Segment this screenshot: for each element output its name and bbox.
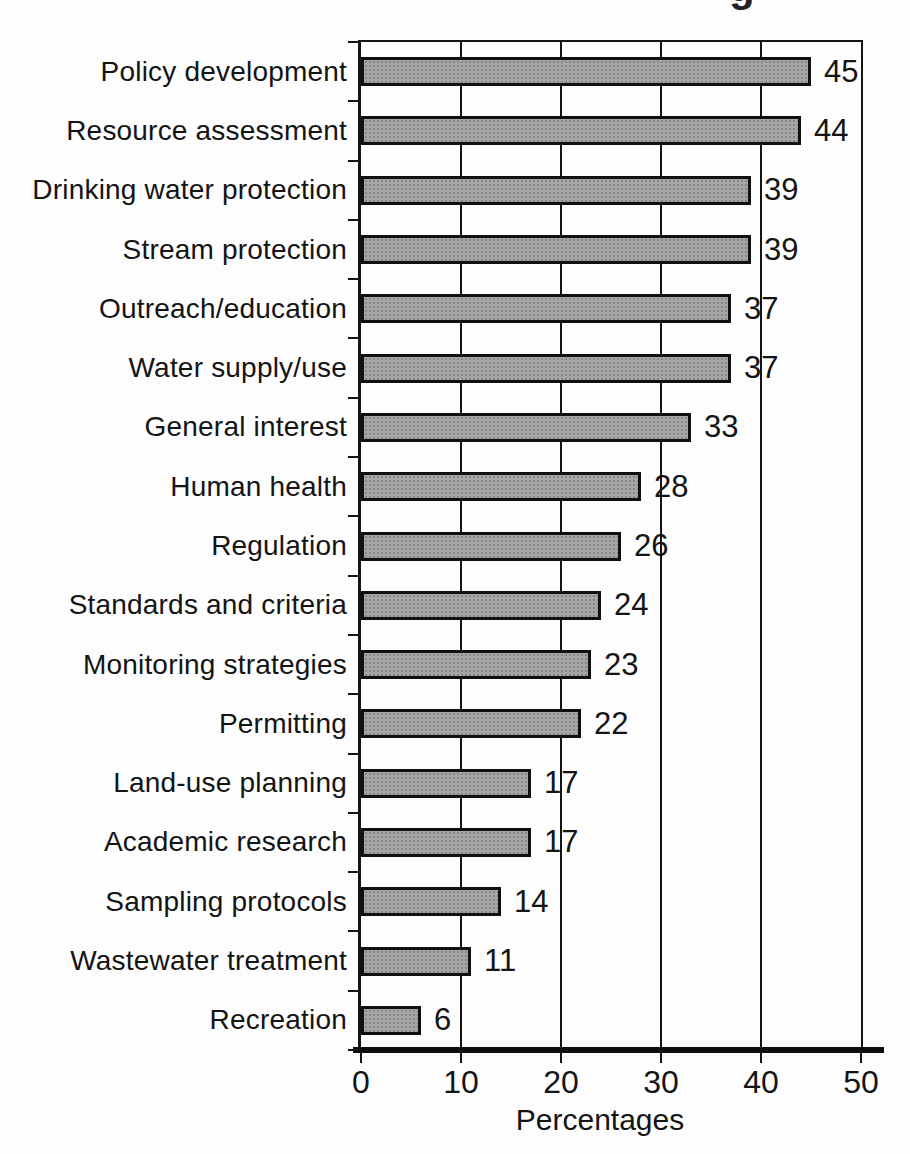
y-axis-tick-17 xyxy=(348,1049,358,1051)
y-axis-tick-8 xyxy=(348,515,358,517)
bar-sampling-protocols xyxy=(361,887,501,916)
y-axis-tick-5 xyxy=(348,337,358,339)
x-axis-tick-label-40: 40 xyxy=(743,1064,779,1101)
value-label-stream-protection: 39 xyxy=(764,232,798,268)
category-label-monitoring-strategies: Monitoring strategies xyxy=(0,644,347,686)
category-label-water-supply-use: Water supply/use xyxy=(0,347,347,389)
y-axis-tick-12 xyxy=(348,753,358,755)
bar-drinking-water-protection xyxy=(361,176,751,205)
value-label-recreation: 6 xyxy=(434,1002,451,1038)
bar-land-use-planning xyxy=(361,769,531,798)
x-axis-tick-20 xyxy=(560,1052,562,1063)
y-axis-tick-4 xyxy=(348,278,358,280)
y-axis-tick-10 xyxy=(348,634,358,636)
x-axis-tick-0 xyxy=(360,1052,362,1063)
value-label-standards-and-criteria: 24 xyxy=(614,587,648,623)
bar-academic-research xyxy=(361,828,531,857)
category-label-policy-development: Policy development xyxy=(0,51,347,93)
value-label-wastewater-treatment: 11 xyxy=(484,943,516,979)
category-label-standards-and-criteria: Standards and criteria xyxy=(0,584,347,626)
value-label-regulation: 26 xyxy=(634,528,668,564)
value-label-general-interest: 33 xyxy=(704,409,738,445)
y-axis-tick-11 xyxy=(348,693,358,695)
category-label-outreach-education: Outreach/education xyxy=(0,288,347,330)
category-label-regulation: Regulation xyxy=(0,525,347,567)
value-label-academic-research: 17 xyxy=(544,824,578,860)
value-label-land-use-planning: 17 xyxy=(544,765,578,801)
gridline-40 xyxy=(760,42,762,1050)
x-axis-tick-label-30: 30 xyxy=(643,1064,679,1101)
category-label-general-interest: General interest xyxy=(0,406,347,448)
x-axis-tick-30 xyxy=(660,1052,662,1063)
category-label-sampling-protocols: Sampling protocols xyxy=(0,881,347,923)
x-axis-tick-label-10: 10 xyxy=(443,1064,479,1101)
bar-policy-development xyxy=(361,57,811,86)
bar-water-supply-use xyxy=(361,354,731,383)
plot-area: 454439393737332826242322171714116 xyxy=(358,40,863,1052)
y-axis-tick-9 xyxy=(348,575,358,577)
value-label-drinking-water-protection: 39 xyxy=(764,172,798,208)
scanned-bar-chart-page: g Policy developmentResource assessmentD… xyxy=(0,0,910,1154)
x-axis-tick-40 xyxy=(760,1052,762,1063)
category-label-land-use-planning: Land-use planning xyxy=(0,762,347,804)
value-label-human-health: 28 xyxy=(654,469,688,505)
x-axis-tick-label-20: 20 xyxy=(543,1064,579,1101)
category-label-wastewater-treatment: Wastewater treatment xyxy=(0,940,347,982)
category-label-academic-research: Academic research xyxy=(0,821,347,863)
value-label-policy-development: 45 xyxy=(824,54,858,90)
category-axis-labels: Policy developmentResource assessmentDri… xyxy=(0,0,347,1154)
x-axis-tick-label-50: 50 xyxy=(843,1064,879,1101)
bar-recreation xyxy=(361,1006,421,1035)
y-axis-tick-1 xyxy=(348,100,358,102)
category-label-resource-assessment: Resource assessment xyxy=(0,110,347,152)
y-axis-tick-2 xyxy=(348,160,358,162)
bar-regulation xyxy=(361,532,621,561)
y-axis-tick-16 xyxy=(348,990,358,992)
y-axis-tick-7 xyxy=(348,456,358,458)
value-label-permitting: 22 xyxy=(594,706,628,742)
y-axis-tick-0 xyxy=(348,41,358,43)
x-axis-tick-50 xyxy=(860,1052,862,1063)
x-axis-title: Percentages xyxy=(516,1103,684,1137)
bar-general-interest xyxy=(361,413,691,442)
bar-resource-assessment xyxy=(361,116,801,145)
value-label-water-supply-use: 37 xyxy=(744,350,778,386)
value-label-sampling-protocols: 14 xyxy=(514,884,548,920)
y-axis-tick-3 xyxy=(348,219,358,221)
category-label-permitting: Permitting xyxy=(0,703,347,745)
category-label-stream-protection: Stream protection xyxy=(0,229,347,271)
bar-stream-protection xyxy=(361,235,751,264)
value-label-monitoring-strategies: 23 xyxy=(604,647,638,683)
bar-outreach-education xyxy=(361,294,731,323)
y-axis-tick-15 xyxy=(348,930,358,932)
x-axis-baseline xyxy=(353,1047,884,1053)
bar-wastewater-treatment xyxy=(361,947,471,976)
cropped-title-fragment: g xyxy=(729,0,755,11)
bar-monitoring-strategies xyxy=(361,650,591,679)
category-label-human-health: Human health xyxy=(0,466,347,508)
y-axis-tick-13 xyxy=(348,812,358,814)
y-axis-tick-14 xyxy=(348,871,358,873)
x-axis-tick-label-0: 0 xyxy=(352,1064,370,1101)
bar-standards-and-criteria xyxy=(361,591,601,620)
value-label-outreach-education: 37 xyxy=(744,291,778,327)
y-axis-tick-6 xyxy=(348,397,358,399)
x-axis-tick-10 xyxy=(460,1052,462,1063)
bar-human-health xyxy=(361,472,641,501)
category-label-recreation: Recreation xyxy=(0,999,347,1041)
bar-permitting xyxy=(361,709,581,738)
category-label-drinking-water-protection: Drinking water protection xyxy=(0,169,347,211)
value-label-resource-assessment: 44 xyxy=(814,113,848,149)
